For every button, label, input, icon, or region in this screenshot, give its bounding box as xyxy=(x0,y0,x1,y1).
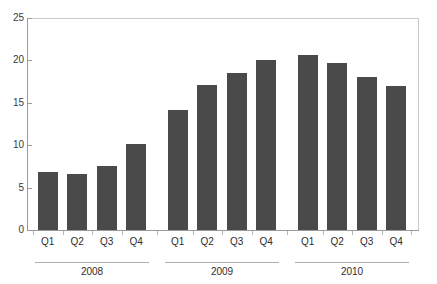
year-bracket-label: 2010 xyxy=(295,265,409,279)
year-bracket-rule xyxy=(295,262,409,263)
bar xyxy=(357,77,377,230)
year-bracket-rule xyxy=(165,262,279,263)
year-bracket-label: 2009 xyxy=(165,265,279,279)
x-axis-label-quarter: Q4 xyxy=(246,236,286,248)
x-axis-tick xyxy=(63,231,64,235)
x-axis-line xyxy=(27,230,419,231)
x-axis-label-quarter: Q4 xyxy=(116,236,156,248)
bar xyxy=(38,172,58,231)
bar xyxy=(197,85,217,230)
y-axis-label-wrap: 0 xyxy=(0,225,24,235)
x-axis-tick xyxy=(157,231,158,235)
y-axis-label: 5 xyxy=(2,183,24,193)
bar xyxy=(386,86,406,230)
x-axis-tick xyxy=(193,231,194,235)
y-axis-label-wrap: 10 xyxy=(0,140,24,150)
x-axis-tick xyxy=(33,231,34,235)
y-axis-label: 0 xyxy=(2,225,24,235)
year-bracket-label: 2008 xyxy=(35,265,149,279)
y-axis-label: 15 xyxy=(2,98,24,108)
x-axis-tick xyxy=(122,231,123,235)
x-axis-tick xyxy=(287,231,288,235)
bar xyxy=(298,55,318,230)
y-axis-label-wrap: 5 xyxy=(0,183,24,193)
y-axis-label-wrap: 20 xyxy=(0,55,24,65)
bar xyxy=(168,110,188,230)
y-axis-label-wrap: 15 xyxy=(0,98,24,108)
x-axis-tick xyxy=(323,231,324,235)
y-axis-label: 10 xyxy=(2,140,24,150)
y-axis-label: 25 xyxy=(2,13,24,23)
bar xyxy=(97,166,117,230)
x-axis-tick xyxy=(252,231,253,235)
y-axis-tick xyxy=(28,230,32,231)
bar-chart: 0510152025 Q1Q2Q3Q4Q1Q2Q3Q4Q1Q2Q3Q4 2008… xyxy=(0,0,437,284)
x-axis-tick xyxy=(352,231,353,235)
year-bracket-rule xyxy=(35,262,149,263)
x-axis-tick xyxy=(92,231,93,235)
bar xyxy=(67,174,87,230)
y-axis-label-wrap: 25 xyxy=(0,13,24,23)
x-axis-tick xyxy=(382,231,383,235)
y-axis-label: 20 xyxy=(2,55,24,65)
x-axis-tick xyxy=(411,231,412,235)
x-axis-label-quarter: Q4 xyxy=(376,236,416,248)
bar xyxy=(327,63,347,230)
bar xyxy=(256,60,276,230)
bars-container xyxy=(27,18,419,230)
x-axis-tick xyxy=(222,231,223,235)
bar xyxy=(227,73,247,230)
bar xyxy=(126,144,146,230)
